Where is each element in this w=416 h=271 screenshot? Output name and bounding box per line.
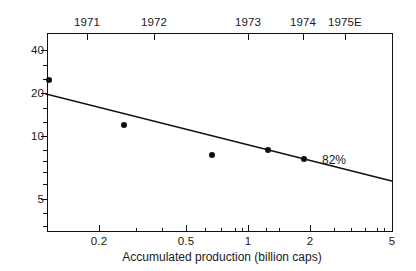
axis-line-left — [47, 33, 48, 232]
bottom-tick-2 — [310, 225, 311, 232]
left-tick-label-10: 10 — [31, 130, 44, 142]
bottom-minor-tick — [235, 228, 236, 232]
left-minor-tick — [43, 226, 48, 227]
bottom-tick-label-5: 5 — [389, 235, 396, 247]
top-tick-1972 — [154, 33, 155, 40]
bottom-minor-tick — [162, 228, 163, 232]
top-tick-label-1971: 1971 — [74, 16, 100, 28]
bottom-minor-tick — [221, 228, 222, 232]
left-minor-tick — [43, 122, 48, 123]
bottom-tick-label-1: 1 — [245, 235, 252, 247]
curve-rate-annotation: 82% — [322, 153, 346, 167]
bottom-tick-0-2 — [99, 225, 100, 232]
top-tick-label-1974: 1974 — [290, 16, 316, 28]
axis-line-right — [392, 33, 393, 232]
left-minor-tick — [43, 172, 48, 173]
left-minor-tick — [43, 65, 48, 66]
left-minor-tick — [43, 184, 48, 185]
experience-curve-chart: 1971 1972 1973 1974 1975E 40 20 10 5 — [0, 0, 416, 271]
top-tick-1975e — [345, 33, 346, 40]
bottom-minor-tick — [266, 228, 267, 232]
bottom-tick-label-0-2: 0.2 — [91, 235, 107, 247]
left-tick-label-40: 40 — [31, 44, 44, 56]
bottom-minor-tick — [279, 228, 280, 232]
data-point-1975e — [301, 156, 307, 162]
data-point-1973 — [209, 152, 215, 158]
bottom-minor-tick — [384, 228, 385, 232]
bottom-minor-tick — [334, 228, 335, 232]
data-point-1971 — [46, 77, 52, 83]
top-tick-1974 — [303, 33, 304, 40]
left-tick-label-20: 20 — [31, 87, 44, 99]
bottom-minor-tick — [365, 228, 366, 232]
data-point-1972 — [121, 122, 127, 128]
left-minor-tick — [43, 213, 48, 214]
top-tick-1973 — [248, 33, 249, 40]
bottom-tick-label-0-5: 0.5 — [178, 235, 194, 247]
left-minor-tick — [43, 161, 48, 162]
left-minor-tick — [43, 150, 48, 151]
bottom-minor-tick — [205, 228, 206, 232]
bottom-tick-1 — [248, 225, 249, 232]
x-axis-title: Accumulated production (billion caps) — [122, 250, 321, 264]
bottom-minor-tick — [377, 228, 378, 232]
top-tick-label-1975e: 1975E — [328, 16, 362, 28]
axis-line-top — [47, 33, 393, 34]
bottom-tick-5 — [392, 225, 393, 232]
bottom-tick-0-5 — [186, 225, 187, 232]
left-minor-tick — [43, 108, 48, 109]
bottom-minor-tick — [242, 228, 243, 232]
data-point-1974 — [265, 147, 271, 153]
top-tick-label-1973: 1973 — [235, 16, 261, 28]
bottom-minor-tick — [351, 228, 352, 232]
bottom-minor-tick — [136, 228, 137, 232]
bottom-tick-label-2: 2 — [307, 235, 314, 247]
top-tick-1971 — [87, 33, 88, 40]
left-tick-label-5: 5 — [38, 193, 45, 205]
top-tick-label-1972: 1972 — [141, 16, 167, 28]
